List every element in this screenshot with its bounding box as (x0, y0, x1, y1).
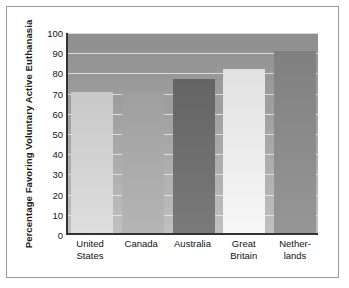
x-tick-label-line: Nether- (274, 238, 316, 250)
y-tick-label: 50 (52, 129, 63, 140)
bar (223, 69, 265, 233)
x-tick-label-line: lands (274, 250, 316, 262)
y-axis-tick-labels: 0102030405060708090100 (37, 33, 63, 235)
bar (71, 92, 113, 233)
y-tick-label: 70 (52, 88, 63, 99)
x-tick-label-line: Great (223, 238, 265, 250)
x-axis-tick-labels: UnitedStatesCanadaAustraliaGreatBritainN… (66, 238, 318, 272)
bar-series (68, 33, 318, 233)
y-tick-label: 20 (52, 189, 63, 200)
x-tick-label: UnitedStates (69, 238, 111, 272)
x-tick-label: Nether-lands (274, 238, 316, 272)
plot-area (66, 33, 318, 235)
y-tick-label: 30 (52, 169, 63, 180)
bar (122, 92, 164, 233)
y-tick-label: 60 (52, 108, 63, 119)
x-tick-label: Australia (172, 238, 214, 272)
x-tick-label-line: Canada (120, 238, 162, 250)
y-tick-label: 80 (52, 68, 63, 79)
y-tick-label: 100 (47, 28, 63, 39)
x-tick-label-line: United (69, 238, 111, 250)
x-tick-label-line: Britain (223, 250, 265, 262)
x-tick-label-line: Australia (172, 238, 214, 250)
y-tick-label: 90 (52, 48, 63, 59)
bar (274, 51, 316, 233)
x-tick-label: Canada (120, 238, 162, 272)
y-tick-label: 10 (52, 209, 63, 220)
y-tick-label: 0 (58, 230, 63, 241)
x-tick-label-line: States (69, 250, 111, 262)
bar (173, 79, 215, 233)
chart-frame: Percentage Favoring Voluntary Active Eut… (6, 6, 339, 278)
y-tick-label: 40 (52, 149, 63, 160)
x-tick-label: GreatBritain (223, 238, 265, 272)
y-axis-title-text: Percentage Favoring Voluntary Active Eut… (23, 20, 35, 249)
